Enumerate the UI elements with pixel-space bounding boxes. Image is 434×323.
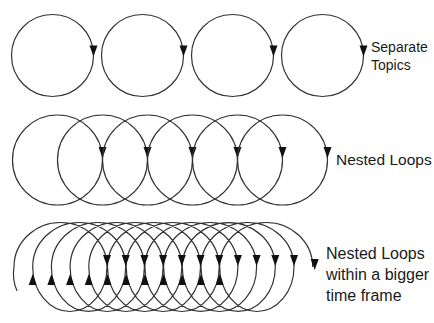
arrow-down-icon bbox=[90, 46, 98, 57]
loop-circle bbox=[192, 15, 274, 97]
arrow-up-icon bbox=[85, 274, 93, 285]
arrow-down-icon bbox=[270, 46, 278, 57]
arrow-up-icon bbox=[178, 274, 186, 285]
nested-loops-time-frame-spiral bbox=[13, 223, 318, 312]
arrow-down-icon bbox=[197, 255, 205, 266]
spiral-path bbox=[13, 223, 312, 312]
arrow-up-icon bbox=[122, 274, 130, 285]
arrow-down-icon bbox=[324, 147, 332, 158]
arrow-up-icon bbox=[29, 274, 37, 285]
label-line: Nested Loops bbox=[326, 246, 429, 267]
bigger-time-frame-label: Nested Loops within a bigger time frame bbox=[326, 246, 429, 309]
arrow-down-icon bbox=[311, 259, 319, 270]
arrow-up-icon bbox=[197, 274, 205, 285]
arrow-down-icon bbox=[159, 255, 167, 266]
label-line: Nested Loops bbox=[336, 152, 432, 168]
arrow-up-icon bbox=[47, 274, 55, 285]
arrow-down-icon bbox=[279, 147, 287, 158]
loop-circle bbox=[282, 15, 364, 97]
nested-loops bbox=[13, 115, 332, 205]
label-line: Separate bbox=[371, 40, 428, 58]
arrow-up-icon bbox=[216, 274, 224, 285]
label-line: time frame bbox=[326, 288, 429, 309]
arrow-down-icon bbox=[290, 255, 298, 266]
arrow-down-icon bbox=[122, 255, 130, 266]
loop-circle bbox=[102, 15, 184, 97]
label-line: within a bigger bbox=[326, 267, 429, 288]
arrow-up-icon bbox=[141, 274, 149, 285]
loop-circle bbox=[12, 15, 94, 97]
label-line: Topics bbox=[371, 58, 428, 76]
separate-topics-loops bbox=[12, 15, 368, 97]
arrow-down-icon bbox=[360, 46, 368, 57]
arrow-down-icon bbox=[253, 255, 261, 266]
arrow-up-icon bbox=[66, 274, 74, 285]
arrow-down-icon bbox=[234, 255, 242, 266]
arrow-down-icon bbox=[140, 255, 148, 266]
arrow-down-icon bbox=[103, 255, 111, 266]
separate-topics-label: Separate Topics bbox=[371, 40, 428, 76]
arrow-down-icon bbox=[178, 255, 186, 266]
arrow-down-icon bbox=[180, 46, 188, 57]
arrow-up-icon bbox=[104, 274, 112, 285]
arrow-down-icon bbox=[215, 255, 223, 266]
nested-loops-label: Nested Loops bbox=[336, 152, 432, 168]
arrow-down-icon bbox=[271, 255, 279, 266]
arrow-up-icon bbox=[160, 274, 168, 285]
